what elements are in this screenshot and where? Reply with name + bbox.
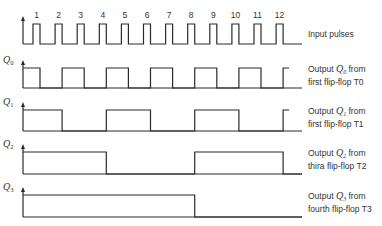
input-pulses-label: Input pulses [308,29,354,39]
q1-axis-arrow-icon [21,102,25,107]
pulse-number: 10 [228,10,242,20]
q1-description: Output Q1 fromfirst flip-flop T1 [308,106,366,129]
q3-description: Output Q3 fromfourth flip-flop T3 [308,191,372,214]
pulse-number: 5 [118,10,132,20]
q3-axis-label: Q3 [3,181,13,193]
pulse-number: 6 [140,10,154,20]
pulse-number: 9 [206,10,220,20]
pulse-number: 7 [162,10,176,20]
q0-axis-label: Q0 [3,54,13,66]
pulse-number: 1 [30,10,44,20]
pulse-number: 11 [251,10,265,20]
q1-waveform [23,110,289,131]
input-axis-arrow-icon [21,16,25,21]
pulse-number: 4 [96,10,110,20]
q1-axis-label: Q1 [3,96,13,108]
pulse-number: 8 [184,10,198,20]
q2-description: Output Q2 fromthira flip-flop T2 [308,148,366,171]
pulse-number: 12 [273,10,287,20]
q2-axis-arrow-icon [21,144,25,149]
q3-axis-arrow-icon [21,187,25,192]
pulse-number: 3 [74,10,88,20]
q0-axis-arrow-icon [21,60,25,65]
input-pulse-train [23,24,302,44]
q0-description: Output Q0 fromfirst flip-flop T0 [308,64,366,87]
q2-waveform [23,152,302,174]
q0-waveform [23,68,289,88]
pulse-number: 2 [52,10,66,20]
q3-waveform [23,195,302,217]
q2-axis-label: Q2 [3,138,13,150]
